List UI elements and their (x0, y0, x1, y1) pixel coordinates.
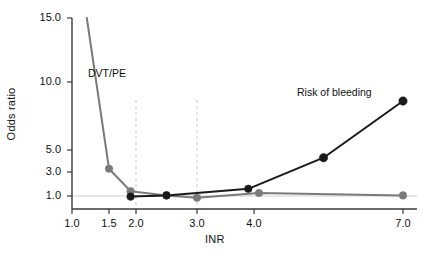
x-axis-title: INR (205, 233, 225, 245)
data-point (163, 192, 171, 200)
data-point (399, 97, 407, 105)
chart-axes (67, 18, 417, 214)
x-tick-label: 3.0 (177, 217, 217, 229)
guide-lines (72, 100, 417, 209)
series-line-bleeding (131, 101, 403, 197)
y-tick-label: 15.0 (15, 11, 61, 23)
y-axis-title: Odds ratio (5, 79, 17, 149)
data-point (245, 185, 253, 193)
data-point (255, 189, 263, 197)
data-point (105, 165, 113, 173)
x-tick-label: 4.0 (234, 217, 274, 229)
x-tick-label: 2.0 (116, 217, 156, 229)
x-tick-label: 7.0 (383, 217, 423, 229)
y-tick-label: 3.0 (15, 165, 61, 177)
odds-ratio-inr-chart: Odds ratio INR 1.03.05.010.015.0 1.01.52… (0, 0, 427, 259)
y-tick-label: 1.0 (15, 189, 61, 201)
data-point (319, 154, 327, 162)
y-tick-label: 5.0 (15, 143, 61, 155)
series-label-bleeding: Risk of bleeding (297, 86, 372, 98)
data-point (193, 194, 201, 202)
series-lines (87, 18, 403, 198)
data-point (127, 193, 135, 201)
series-label-dvtpe: DVT/PE (88, 67, 126, 79)
y-tick-label: 10.0 (15, 75, 61, 87)
series-line-dvtpe (87, 18, 403, 198)
data-point (399, 192, 407, 200)
x-tick-label: 1.0 (52, 217, 92, 229)
